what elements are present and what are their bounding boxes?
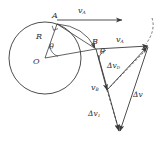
radius-OA-line — [45, 24, 57, 58]
physics-diagram-figure: A B O R θ θ vA vA vB ΔvD Δv1 Δv — [0, 0, 159, 142]
label-delta-v: Δv — [133, 91, 143, 99]
label-delta-vD-base: Δv — [107, 61, 117, 70]
label-point-A: A — [52, 12, 58, 20]
label-velocity-vA-vector-sub: A — [121, 39, 124, 44]
label-velocity-vA-vector: vA — [116, 36, 124, 44]
label-point-B: B — [92, 38, 98, 46]
label-velocity-vB-vector: vB — [91, 84, 99, 92]
label-delta-v-base: Δv — [133, 90, 143, 99]
label-delta-vD: ΔvD — [107, 62, 120, 70]
label-velocity-vB-vector-sub: B — [96, 87, 99, 92]
label-velocity-vA-top: vA — [78, 7, 86, 15]
label-delta-vD-sub: D — [117, 65, 120, 70]
label-theta-at-B: θ — [100, 48, 105, 56]
right-angle-mark-at-A — [52, 26, 58, 31]
chord-AB-line — [57, 24, 96, 49]
label-point-O: O — [33, 58, 40, 66]
dashed-arc-top-right — [146, 18, 153, 44]
diagram-canvas — [0, 0, 159, 142]
label-delta-v1: Δv1 — [88, 110, 100, 118]
label-delta-v1-base: Δv — [88, 109, 98, 118]
label-velocity-vA-top-sub: A — [83, 10, 86, 15]
delta-v-vector-arrow — [120, 47, 148, 131]
label-radius-R: R — [36, 33, 42, 41]
label-delta-v1-sub: 1 — [98, 113, 101, 118]
label-theta-center: θ — [49, 43, 54, 51]
